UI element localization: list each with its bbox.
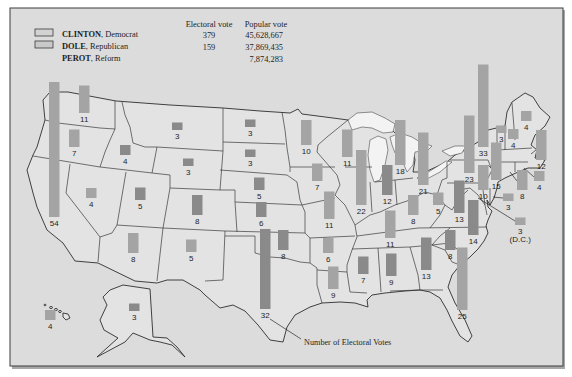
ev-bar-ohio bbox=[418, 133, 429, 186]
ev-bar-vermont bbox=[496, 126, 507, 134]
ev-bar-south-carolina bbox=[445, 230, 456, 250]
ev-label-alaska: 3 bbox=[132, 313, 137, 322]
ev-label-new-hampshire: 4 bbox=[511, 141, 516, 150]
ev-label-west-virginia: 5 bbox=[436, 207, 441, 216]
legend-swatch-dole bbox=[35, 41, 53, 48]
electoral-vote-dole: 159 bbox=[203, 43, 216, 52]
popular-vote-clinton: 45,628,667 bbox=[245, 31, 283, 40]
ev-bar-kansas bbox=[256, 202, 267, 217]
ev-bar-rhode-island bbox=[534, 171, 545, 181]
ev-bar-new-mexico bbox=[186, 240, 197, 253]
ev-bar-north-carolina bbox=[468, 200, 479, 235]
ev-label-idaho: 4 bbox=[123, 157, 128, 166]
ev-note-district-of-columbia: (D.C.) bbox=[510, 235, 532, 244]
ev-label-wyoming: 3 bbox=[186, 168, 191, 177]
ev-bar-virginia bbox=[454, 181, 465, 214]
ev-bar-south-dakota bbox=[245, 150, 256, 158]
ev-label-montana: 3 bbox=[175, 132, 180, 141]
ev-label-south-carolina: 8 bbox=[448, 252, 453, 261]
ev-label-new-mexico: 5 bbox=[189, 254, 194, 263]
ev-bar-minnesota bbox=[301, 120, 312, 145]
ev-bar-tennessee bbox=[385, 211, 396, 239]
ev-bar-arizona bbox=[128, 233, 139, 253]
ev-bar-nebraska bbox=[254, 178, 265, 191]
ev-bar-north-dakota bbox=[245, 120, 256, 128]
ev-bar-missouri bbox=[324, 192, 335, 220]
ev-bar-pennsylvania bbox=[464, 116, 475, 174]
ev-label-louisiana: 9 bbox=[331, 291, 336, 300]
legend-entry-perot: PEROT, Reform bbox=[62, 54, 121, 63]
ev-bar-massachusetts bbox=[536, 130, 547, 160]
ev-label-arkansas: 6 bbox=[326, 255, 331, 264]
ev-label-arizona: 8 bbox=[131, 255, 136, 264]
ev-label-maine: 4 bbox=[524, 123, 529, 132]
ev-bar-delaware bbox=[503, 194, 514, 202]
ev-bar-west-virginia bbox=[433, 193, 444, 206]
ev-label-tennessee: 11 bbox=[386, 240, 395, 249]
ev-label-north-carolina: 14 bbox=[469, 237, 478, 246]
party-name: Democrat bbox=[105, 30, 139, 39]
ev-bar-nevada bbox=[86, 188, 97, 198]
ev-bar-new-jersey bbox=[491, 143, 502, 181]
ev-label-alabama: 9 bbox=[389, 278, 394, 287]
ev-label-connecticut: 8 bbox=[520, 192, 525, 201]
ev-bar-alaska bbox=[129, 304, 140, 312]
ev-bar-kentucky bbox=[408, 195, 419, 215]
legend-entry-dole: DOLE, Republican bbox=[62, 42, 129, 51]
ev-bar-florida bbox=[457, 248, 468, 311]
ev-label-hawaii: 4 bbox=[48, 322, 53, 331]
ev-bar-wisconsin bbox=[342, 130, 353, 158]
ev-bar-california bbox=[49, 82, 60, 217]
ev-bar-iowa bbox=[312, 164, 323, 182]
ev-label-pennsylvania: 23 bbox=[465, 175, 474, 184]
ev-label-rhode-island: 4 bbox=[537, 183, 542, 192]
ev-label-kansas: 6 bbox=[259, 219, 264, 228]
ev-label-nebraska: 5 bbox=[257, 192, 262, 201]
ev-bar-wyoming bbox=[183, 159, 194, 167]
ev-label-indiana: 12 bbox=[383, 197, 392, 206]
ev-label-maryland: 10 bbox=[479, 192, 488, 201]
hawaii-island bbox=[44, 304, 46, 306]
ev-label-california: 54 bbox=[50, 219, 59, 228]
ev-bar-alabama bbox=[386, 254, 397, 277]
ev-label-south-dakota: 3 bbox=[248, 159, 253, 168]
header-popular-vote: Popular vote bbox=[245, 20, 288, 29]
ev-label-washington: 11 bbox=[80, 115, 89, 124]
ev-bar-michigan bbox=[395, 120, 406, 165]
ev-label-oklahoma: 8 bbox=[281, 252, 286, 261]
ev-label-texas: 32 bbox=[261, 311, 270, 320]
ev-bar-georgia bbox=[421, 238, 432, 271]
ev-label-missouri: 11 bbox=[325, 221, 334, 230]
ev-bar-oklahoma bbox=[278, 230, 289, 250]
ev-bar-maine bbox=[521, 111, 532, 121]
ev-bar-arkansas bbox=[323, 238, 334, 253]
ev-bar-louisiana bbox=[328, 267, 339, 290]
popular-vote-dole: 37,869,435 bbox=[245, 43, 283, 52]
ev-label-mississippi: 7 bbox=[361, 276, 366, 285]
header-electoral-vote: Electoral vote bbox=[186, 20, 233, 29]
ev-label-minnesota: 10 bbox=[302, 147, 311, 156]
ev-bar-new-hampshire bbox=[508, 129, 519, 139]
ev-label-iowa: 7 bbox=[315, 183, 320, 192]
callout-label: Number of Electoral Votes bbox=[304, 338, 391, 347]
legend-entry-clinton: CLINTON, Democrat bbox=[62, 30, 139, 39]
ev-label-oregon: 7 bbox=[72, 149, 77, 158]
ev-bar-hawaii bbox=[45, 310, 56, 320]
ev-bar-district-of-columbia bbox=[515, 218, 526, 226]
ev-bar-idaho bbox=[120, 145, 131, 155]
ev-label-delaware: 3 bbox=[506, 203, 511, 212]
ev-bar-utah bbox=[135, 188, 146, 201]
ev-bar-illinois bbox=[356, 150, 367, 205]
election-map-figure: 1175444335885335683210711691122181221811… bbox=[0, 0, 572, 377]
ev-label-new-york: 33 bbox=[479, 149, 488, 158]
ev-label-georgia: 13 bbox=[422, 272, 431, 281]
ev-label-north-dakota: 3 bbox=[248, 129, 253, 138]
ev-bar-montana bbox=[172, 123, 183, 131]
hawaii-island bbox=[50, 307, 53, 309]
ev-bar-new-york bbox=[478, 65, 489, 148]
ev-label-massachusetts: 12 bbox=[537, 162, 546, 171]
ev-label-vermont: 3 bbox=[499, 135, 504, 144]
ev-label-utah: 5 bbox=[138, 202, 143, 211]
ev-bar-maryland bbox=[478, 165, 489, 190]
ev-bar-mississippi bbox=[358, 257, 369, 275]
